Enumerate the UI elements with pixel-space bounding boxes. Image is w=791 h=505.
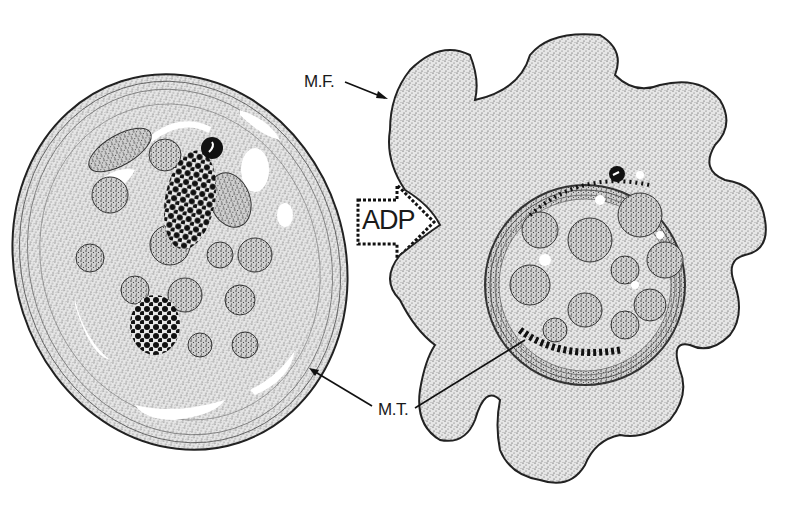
mt-label: M.T. [378,400,408,420]
resting-platelet [0,30,396,493]
activated-platelet [389,34,766,483]
platelet-diagram: ADP M.F. M.T. [0,0,791,505]
diagram-canvas [0,0,791,505]
mf-label: M.F. [304,72,334,92]
adp-label: ADP [362,205,415,236]
